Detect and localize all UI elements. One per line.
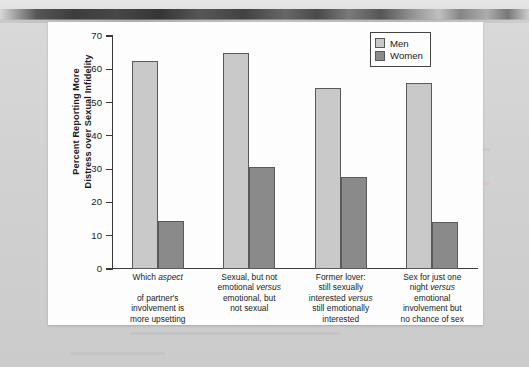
ghost-text-line bbox=[70, 352, 165, 355]
bar-men-group-1 bbox=[132, 61, 158, 269]
y-axis-tick-label: 10 bbox=[66, 230, 102, 241]
legend-label-women: Women bbox=[390, 50, 423, 61]
scanned-page-background: Percent Reporting More Distress over Sex… bbox=[0, 0, 529, 367]
legend-label-men: Men bbox=[390, 38, 409, 49]
y-axis-tick-label: 70 bbox=[66, 30, 102, 41]
chart-figure-panel: Percent Reporting More Distress over Sex… bbox=[48, 22, 483, 325]
y-axis-tick-label: 50 bbox=[66, 97, 102, 108]
y-axis-tick-label: 0 bbox=[66, 263, 102, 274]
plot-area: Percent Reporting More Distress over Sex… bbox=[48, 22, 483, 325]
y-axis-tick-label: 60 bbox=[66, 63, 102, 74]
x-axis-label-group-2: Sexual, but notemotional versusemotional… bbox=[204, 272, 296, 324]
bar-women-group-4 bbox=[432, 222, 458, 269]
bar-women-group-3 bbox=[341, 177, 367, 269]
y-axis-tick-label: 30 bbox=[66, 163, 102, 174]
legend-swatch-men bbox=[375, 38, 385, 48]
bar-men-group-4 bbox=[406, 83, 432, 269]
bar-women-group-1 bbox=[158, 221, 184, 269]
x-axis-label-group-1: Which aspectof partner'sinvolvement ismo… bbox=[112, 272, 204, 324]
y-axis-tick-label: 40 bbox=[66, 130, 102, 141]
bar-men-group-2 bbox=[223, 53, 249, 269]
bar-men-group-3 bbox=[315, 88, 341, 269]
legend-item-men: Men bbox=[375, 38, 423, 49]
x-axis-category-labels: Which aspectof partner'sinvolvement ismo… bbox=[112, 272, 478, 324]
legend-swatch-women bbox=[375, 51, 385, 61]
y-axis-tick-label: 20 bbox=[66, 196, 102, 207]
x-axis-label-group-3: Former lover:still sexuallyinterested ve… bbox=[295, 272, 387, 324]
chart-legend: MenWomen bbox=[370, 32, 431, 67]
bar-women-group-2 bbox=[249, 167, 275, 269]
legend-item-women: Women bbox=[375, 50, 423, 61]
ghost-text-line bbox=[130, 332, 340, 335]
x-axis-label-group-4: Sex for just onenight versusemotionalinv… bbox=[387, 272, 479, 324]
bars-layer bbox=[112, 36, 478, 269]
